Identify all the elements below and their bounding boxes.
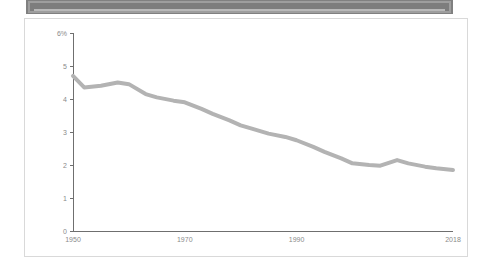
chart-svg: 0123456% 1950197019902018 <box>25 19 467 256</box>
y-tick-group: 0123456% <box>57 30 73 235</box>
y-tick-label: 0 <box>63 228 67 235</box>
x-tick-group: 1950197019902018 <box>65 236 461 243</box>
x-axis: 1950197019902018 <box>65 231 461 243</box>
x-tick-label: 2018 <box>445 236 461 243</box>
x-tick-label: 1990 <box>289 236 305 243</box>
top-banner-highlight <box>34 9 445 11</box>
top-banner-inner <box>28 1 451 13</box>
x-tick-label: 1950 <box>65 236 81 243</box>
x-tick-label: 1970 <box>177 236 193 243</box>
y-tick-label: 2 <box>63 162 67 169</box>
series-line-rate <box>73 76 453 170</box>
top-banner <box>24 0 455 14</box>
y-tick-label: 3 <box>63 129 67 136</box>
series-group <box>73 76 453 170</box>
y-tick-label: 4 <box>63 96 67 103</box>
chart-card: 0123456% 1950197019902018 <box>24 18 468 257</box>
y-tick-label: 1 <box>63 195 67 202</box>
y-axis: 0123456% <box>57 30 73 235</box>
y-tick-label: 6% <box>57 30 67 37</box>
line-chart: 0123456% 1950197019902018 <box>25 19 467 256</box>
y-tick-label: 5 <box>63 63 67 70</box>
